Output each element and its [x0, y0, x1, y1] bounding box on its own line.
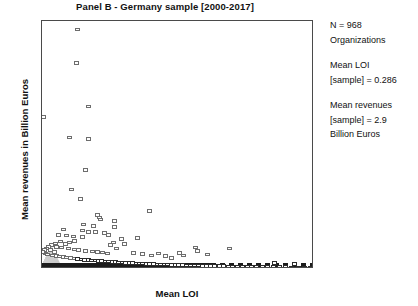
data-point	[64, 234, 69, 238]
data-point	[67, 241, 72, 245]
data-point	[131, 251, 136, 255]
x-tick	[96, 267, 97, 268]
data-point	[112, 219, 117, 223]
annotation-mean-revenues-value: [sample] = 2.9	[330, 113, 416, 128]
x-minor-tick	[219, 267, 220, 268]
annotation-mean-loi-value: [sample] = 0.286	[330, 73, 416, 88]
y-tick	[41, 166, 42, 167]
data-point	[78, 197, 83, 201]
y-axis-title: Mean revenues in Billion Euros	[19, 70, 30, 230]
data-point	[195, 249, 200, 253]
annotation-mean-revenues: Mean revenues [sample] = 2.9 Billion Eur…	[330, 98, 416, 142]
data-point	[272, 261, 277, 265]
x-tick	[260, 267, 261, 268]
data-point	[72, 239, 77, 243]
x-tick	[205, 267, 206, 268]
data-point	[105, 252, 110, 256]
data-point	[292, 262, 297, 266]
x-tick	[151, 267, 152, 268]
data-point	[111, 241, 116, 245]
x-axis-title: Mean LOI	[41, 288, 313, 299]
data-point	[149, 254, 154, 258]
y-tick	[41, 30, 42, 31]
data-point	[135, 236, 140, 240]
data-point	[41, 250, 45, 254]
data-point	[114, 247, 119, 251]
data-point	[147, 209, 152, 213]
data-point	[86, 137, 91, 141]
annotation-mean-revenues-label: Mean revenues	[330, 98, 416, 113]
data-point	[63, 242, 68, 246]
data-point	[56, 233, 61, 237]
x-minor-tick	[300, 267, 301, 268]
x-tick	[42, 267, 43, 268]
data-point	[76, 248, 81, 252]
y-tick	[41, 235, 42, 236]
data-point	[140, 252, 145, 256]
data-point	[163, 254, 168, 258]
data-point	[106, 233, 111, 237]
x-minor-tick	[273, 267, 274, 268]
data-point	[67, 136, 72, 140]
data-point	[265, 265, 270, 268]
annotation-mean-loi: Mean LOI [sample] = 0.286	[330, 58, 416, 87]
data-point	[156, 252, 161, 256]
y-tick	[41, 201, 42, 202]
x-minor-tick	[137, 267, 138, 268]
data-point	[112, 225, 117, 229]
annotation-n-line: N = 968	[330, 18, 416, 33]
data-point	[227, 247, 232, 251]
data-point	[66, 247, 71, 251]
x-tick	[287, 267, 288, 268]
x-tick	[69, 267, 70, 268]
data-point	[98, 218, 103, 222]
data-point	[59, 246, 64, 250]
data-point	[75, 28, 80, 32]
data-point	[69, 188, 74, 192]
chart-title: Panel B - Germany sample [2000-2017]	[0, 1, 330, 12]
data-point	[81, 223, 86, 227]
data-point	[74, 61, 79, 65]
x-minor-tick	[246, 267, 247, 268]
x-minor-tick	[192, 267, 193, 268]
y-tick	[41, 132, 42, 133]
data-point	[308, 266, 313, 268]
annotation-mean-loi-label: Mean LOI	[330, 58, 416, 73]
x-tick	[124, 267, 125, 268]
x-tick	[178, 267, 179, 268]
data-point	[277, 265, 282, 268]
x-minor-tick	[83, 267, 84, 268]
scatter-chart: Panel B - Germany sample [2000-2017] 020…	[0, 0, 418, 306]
data-point	[80, 235, 85, 239]
data-point	[119, 237, 124, 241]
x-minor-tick	[56, 267, 57, 268]
data-point	[91, 224, 96, 228]
data-point	[205, 253, 210, 257]
data-point	[90, 250, 95, 254]
data-point	[71, 235, 76, 239]
chart-annotations: N = 968 Organizations Mean LOI [sample] …	[330, 18, 416, 153]
data-point	[86, 230, 91, 234]
data-point	[41, 115, 46, 119]
plot-inner	[42, 21, 312, 267]
annotation-sample-size: N = 968 Organizations	[330, 18, 416, 47]
data-point	[181, 254, 186, 258]
y-tick	[41, 64, 42, 65]
annotation-organizations-line: Organizations	[330, 33, 416, 48]
data-point	[302, 266, 307, 268]
y-tick	[41, 98, 42, 99]
x-tick	[232, 267, 233, 268]
data-point	[80, 229, 85, 233]
x-minor-tick	[164, 267, 165, 268]
x-minor-tick	[110, 267, 111, 268]
data-point	[93, 230, 98, 234]
data-point	[83, 168, 88, 172]
plot-area: 020406080100120140 0.00.10.20.30.40.50.6…	[41, 20, 313, 268]
data-point	[83, 249, 88, 253]
data-point	[58, 240, 63, 244]
annotation-mean-revenues-unit: Billion Euros	[330, 127, 416, 142]
data-point	[86, 105, 91, 109]
data-point	[122, 242, 127, 246]
data-point	[169, 256, 174, 260]
data-point	[61, 228, 66, 232]
